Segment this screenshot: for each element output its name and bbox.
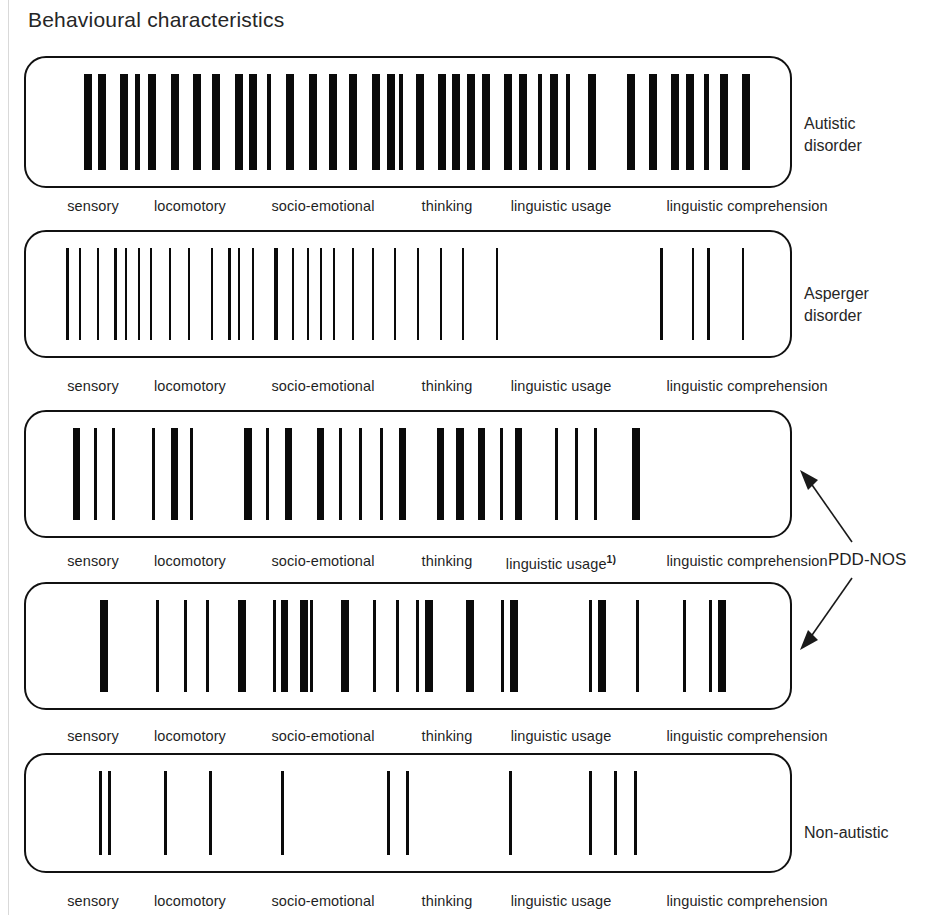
barcode-bar — [462, 248, 464, 340]
barcode-panel-non-autistic — [24, 753, 792, 873]
bar-series-pdd-nos-upper — [26, 412, 790, 536]
barcode-panel-pdd-nos-upper — [24, 410, 792, 538]
barcode-bar — [274, 248, 278, 340]
barcode-bar — [598, 600, 606, 692]
barcode-bar — [504, 74, 512, 170]
axis-label-linguistic-comprehension: linguistic comprehension — [666, 893, 827, 909]
barcode-bar — [171, 74, 179, 170]
barcode-bar — [300, 600, 308, 692]
axis-label-locomotory: locomotory — [154, 728, 226, 744]
barcode-bar — [281, 600, 288, 692]
axis-label-socio-emotional: socio-emotional — [271, 378, 374, 394]
barcode-bar — [720, 74, 728, 170]
barcode-bar — [138, 248, 140, 340]
group-label-pdd-nos: PDD-NOS — [828, 550, 906, 570]
group-label-autistic: Autistic disorder — [804, 113, 862, 156]
barcode-bar — [292, 248, 294, 340]
axis-pdd-nos-lower: sensorylocomotorysocio-emotionalthinking… — [24, 728, 792, 746]
barcode-bar — [704, 74, 709, 170]
barcode-bar — [206, 600, 209, 692]
axis-label-locomotory: locomotory — [154, 198, 226, 214]
barcode-bar — [244, 428, 252, 520]
barcode-bar — [575, 428, 578, 520]
barcode-bar — [440, 248, 442, 340]
barcode-bar — [649, 74, 657, 170]
barcode-bar — [406, 771, 409, 855]
barcode-bar — [456, 428, 464, 520]
barcode-bar — [100, 600, 108, 692]
barcode-bar — [150, 248, 152, 340]
barcode-bar — [66, 248, 69, 340]
barcode-bar — [742, 248, 744, 340]
barcode-bar — [99, 771, 102, 855]
axis-label-sensory: sensory — [67, 378, 118, 394]
bar-series-asperger — [26, 232, 790, 356]
barcode-bar — [394, 248, 396, 340]
barcode-bar — [94, 428, 97, 520]
axis-label-sensory: sensory — [67, 553, 118, 569]
barcode-bar — [339, 428, 342, 520]
barcode-bar — [614, 771, 617, 855]
barcode-bar — [396, 600, 399, 692]
barcode-bar — [184, 600, 187, 692]
axis-label-thinking: thinking — [422, 893, 473, 909]
barcode-bar — [416, 600, 419, 692]
barcode-bar — [249, 74, 257, 170]
barcode-bar — [125, 248, 127, 340]
barcode-bar — [636, 600, 639, 692]
barcode-bar — [416, 74, 424, 170]
barcode-bar — [372, 74, 380, 170]
barcode-bar — [228, 248, 231, 340]
barcode-bar — [84, 74, 92, 170]
group-label-non-autistic: Non-autistic — [804, 822, 888, 844]
barcode-bar — [380, 428, 383, 520]
barcode-bar — [373, 600, 376, 692]
barcode-bar — [632, 428, 640, 520]
page-title: Behavioural characteristics — [28, 8, 284, 32]
barcode-bar — [399, 428, 406, 520]
barcode-bar — [683, 600, 686, 692]
axis-footnote-marker: 1) — [607, 553, 617, 565]
barcode-bar — [97, 248, 99, 340]
barcode-bar — [482, 74, 490, 170]
barcode-bar — [307, 248, 309, 340]
barcode-bar — [211, 248, 213, 340]
barcode-panel-pdd-nos-lower — [24, 582, 792, 710]
barcode-bar — [509, 771, 512, 855]
barcode-bar — [742, 74, 750, 170]
barcode-bar — [589, 771, 592, 855]
barcode-bar — [148, 74, 156, 170]
bar-series-non-autistic — [26, 755, 790, 871]
barcode-bar — [209, 771, 212, 855]
barcode-bar — [500, 428, 503, 520]
barcode-bar — [286, 74, 294, 170]
barcode-bar — [281, 771, 284, 855]
axis-label-linguistic-usage: linguistic usage1) — [506, 553, 616, 572]
barcode-bar — [329, 74, 337, 170]
barcode-bar — [341, 600, 349, 692]
axis-label-locomotory: locomotory — [154, 893, 226, 909]
barcode-bar — [212, 74, 220, 170]
barcode-bar — [114, 248, 117, 340]
barcode-bar — [267, 74, 271, 170]
axis-autistic: sensorylocomotorysocio-emotionalthinking… — [24, 198, 792, 216]
axis-label-thinking: thinking — [422, 198, 473, 214]
axis-label-linguistic-usage: linguistic usage — [511, 893, 612, 909]
group-label-asperger: Asperger disorder — [804, 283, 869, 326]
barcode-bar — [627, 74, 635, 170]
barcode-bar — [169, 248, 171, 340]
barcode-bar — [359, 428, 362, 520]
barcode-bar — [425, 600, 433, 692]
barcode-bar — [309, 74, 317, 170]
axis-label-linguistic-comprehension: linguistic comprehension — [666, 553, 827, 569]
axis-label-linguistic-comprehension: linguistic comprehension — [666, 728, 827, 744]
pdd-nos-arrow-up — [796, 468, 856, 548]
barcode-bar — [709, 600, 712, 692]
barcode-bar — [519, 74, 527, 170]
barcode-bar — [387, 74, 395, 170]
barcode-bar — [538, 74, 542, 170]
barcode-bar — [466, 600, 474, 692]
barcode-bar — [686, 74, 694, 170]
barcode-bar — [273, 600, 276, 692]
barcode-bar — [417, 248, 419, 340]
